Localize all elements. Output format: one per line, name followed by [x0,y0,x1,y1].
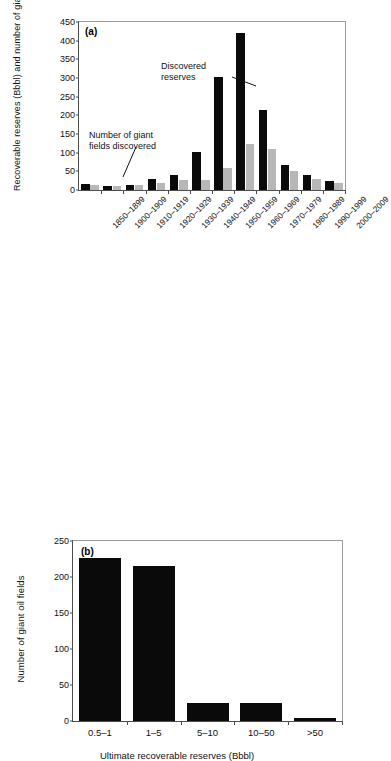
panel-b-tag: (b) [81,546,94,557]
panel-a-y-tick-mark [76,59,80,60]
panel-b: Number of giant oil fields (b) 050100150… [0,258,354,515]
panel-a-bar [170,175,179,190]
panel-b-y-tick-mark [70,613,74,614]
panel-a-x-tick-mark [256,190,257,194]
panel-a-bar [214,77,223,190]
panel-a-bar [192,152,201,190]
panel-b-x-tick-label: >50 [307,727,323,738]
panel-a-bar [246,144,255,190]
panel-a-leader-lines [79,22,347,192]
panel-b-x-tick-label: 10–50 [248,727,274,738]
panel-b-x-tick-label: 5–10 [197,727,218,738]
panel-a-bar [103,186,112,190]
panel-b-x-tick-mark [342,721,343,725]
panel-b-y-axis-label: Number of giant oil fields [16,538,27,720]
panel-a-bar [90,185,99,190]
panel-b-x-axis-title: Ultimate recoverable reserves (Bbbl) [0,750,354,761]
panel-a-x-tick-mark [234,190,235,194]
panel-a-bar [223,168,232,190]
panel-a: Recoverable reserves (Bbbl) and number o… [0,0,354,258]
panel-b-x-tick-mark [181,721,182,725]
panel-a-bar [81,184,90,190]
panel-b-x-tick-mark [234,721,235,725]
panel-b-y-tick-mark [70,541,74,542]
panel-a-x-tick-mark [146,190,147,194]
panel-a-bar [325,181,334,190]
panel-b-plot-area: (b) 050100150200250 0.5–11–55–1010–50>50 [72,540,343,722]
panel-a-y-axis-label: Recoverable reserves (Bbbl) and number o… [12,21,23,191]
panel-a-bar [259,110,268,190]
panel-a-y-tick-mark [76,40,80,41]
panel-a-bar [268,149,277,190]
panel-b-bar [294,718,336,721]
panel-b-bar [133,566,175,721]
panel-a-bar [179,180,188,190]
panel-a-x-tick-mark [323,190,324,194]
panel-a-y-tick-mark [76,115,80,116]
panel-a-bar [312,179,321,190]
panel-a-bar [334,183,343,190]
panel-a-bar [148,179,157,190]
panel-a-x-tick-mark [123,190,124,194]
panel-a-bar [236,33,245,190]
panel-b-x-tick-label: 1–5 [146,727,162,738]
panel-b-y-tick-mark [70,577,74,578]
panel-a-y-tick-mark [76,78,80,79]
panel-b-x-tick-mark [127,721,128,725]
panel-a-bar [281,165,290,190]
panel-b-y-tick-mark [70,685,74,686]
panel-a-y-tick-mark [76,190,80,191]
panel-a-bar [201,180,210,190]
panel-b-bar [79,558,121,721]
panel-a-y-tick-mark [76,152,80,153]
panel-a-bar [135,185,144,190]
panel-a-y-tick-mark [76,22,80,23]
panel-a-x-tick-mark [101,190,102,194]
panel-b-x-tick-mark [288,721,289,725]
panel-a-x-tick-mark [168,190,169,194]
panel-a-bar [126,185,135,190]
panel-a-y-tick-mark [76,96,80,97]
panel-a-x-tick-mark [212,190,213,194]
panel-a-x-tick-mark [279,190,280,194]
panel-b-y-tick-mark [70,649,74,650]
panel-a-bar [157,183,166,190]
panel-b-bar [240,703,282,721]
panel-a-x-tick-mark [301,190,302,194]
panel-a-y-tick-mark [76,171,80,172]
panel-a-bar [113,186,122,190]
panel-b-bar [187,703,229,721]
panel-a-y-tick-mark [76,134,80,135]
panel-a-x-tick-mark [190,190,191,194]
panel-b-x-tick-label: 0.5–1 [88,727,112,738]
panel-a-plot-area: (a) Discovered reserves Number of giant … [78,21,346,191]
panel-a-bar [290,171,299,190]
panel-a-x-tick-mark [345,190,346,194]
panel-a-bar [303,175,312,190]
panel-b-y-tick-mark [70,721,74,722]
